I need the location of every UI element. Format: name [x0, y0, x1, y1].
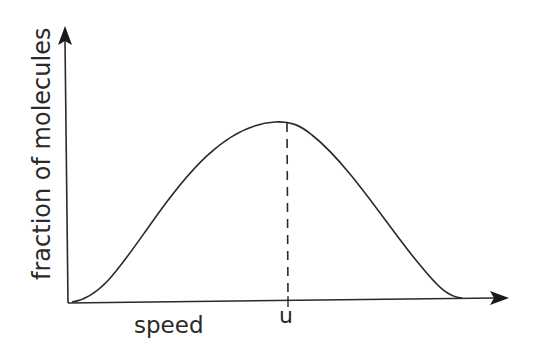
- distribution-diagram: fraction of molecules speed u: [0, 0, 534, 351]
- x-axis-label: speed: [134, 312, 203, 338]
- y-axis-label: fraction of molecules: [28, 28, 56, 280]
- peak-u-label: u: [279, 303, 293, 328]
- y-axis: [65, 40, 68, 303]
- diagram-canvas: fraction of molecules speed u: [0, 0, 534, 351]
- peak-dashed-line: [287, 123, 288, 300]
- distribution-curve: [72, 122, 462, 302]
